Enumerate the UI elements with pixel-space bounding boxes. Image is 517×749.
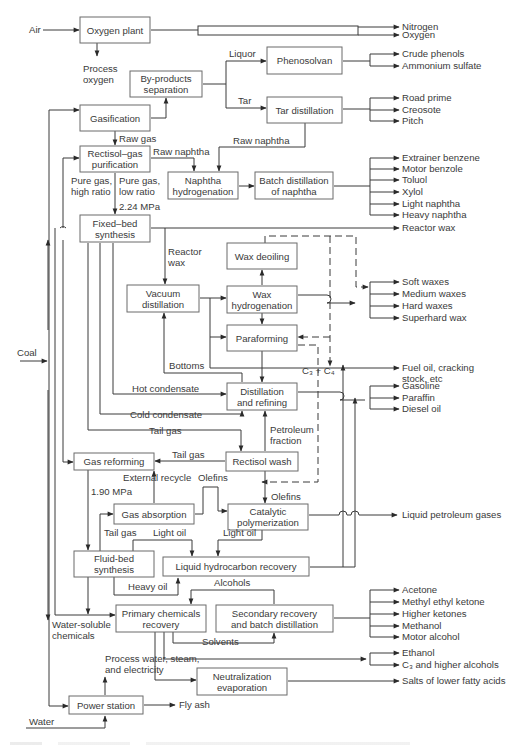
unit-vacuum-distillation: Vacuumdistillation — [127, 285, 199, 312]
unit-tar-distillation: Tar distillation — [267, 97, 342, 123]
output-secondary-recovery: Motor alcohol — [402, 631, 460, 642]
stream-c3-c4: C₃ + C₄ — [302, 365, 335, 376]
unit-secondary-recovery: Secondary recoveryand batch distillation — [216, 605, 333, 632]
unit-rectisol-gas-purification: Rectisol–gaspurification — [80, 146, 150, 172]
stream-tar: Tar — [238, 95, 252, 106]
stream-pressure-190: 1.90 MPa — [91, 486, 133, 497]
unit-gasification: Gasification — [80, 105, 150, 131]
unit-label: Oxygen plant — [87, 25, 144, 36]
output-secondary-recovery: Higher ketones — [402, 608, 467, 619]
stream-process-water: and electricity — [105, 664, 164, 675]
stream-raw-naphtha-2: Raw naphtha — [233, 135, 290, 146]
unit-label: Paraforming — [236, 333, 288, 344]
stream-light-oil-2: Light oil — [223, 527, 256, 538]
stream-raw-gas: Raw gas — [119, 133, 157, 144]
unit-label: Gas absorption — [121, 509, 186, 520]
stream-tail-gas-1: Tail gas — [149, 425, 182, 436]
output-distillation-refining: Diesel oil — [402, 403, 441, 414]
output-tar-distillation: Road prime — [402, 92, 452, 103]
unit-label: synthesis — [94, 564, 134, 575]
unit-label: Tar distillation — [275, 105, 333, 116]
output-batch-distillation-naphtha: Xylol — [402, 186, 423, 197]
stream-process-oxygen: oxygen — [83, 74, 114, 85]
unit-fixed-bed-synthesis: Fixed–bedsynthesis — [80, 215, 150, 242]
unit-wax-deoiling: Wax deoiling — [227, 243, 297, 269]
unit-neutralization-evaporation: Neutralizationevaporation — [197, 668, 287, 695]
output-power-station: Fly ash — [179, 699, 210, 710]
stream-pure-gas-low: Pure gas, — [119, 175, 160, 186]
unit-byproducts-separation: By-productsseparation — [130, 71, 202, 97]
stream-reactor-wax: wax — [167, 257, 185, 268]
unit-label: Wax deoiling — [235, 251, 290, 262]
unit-label: Fixed–bed — [93, 218, 138, 229]
stream-water-soluble: chemicals — [52, 630, 95, 641]
output-batch-distillation-naphtha: Light naphtha — [402, 198, 461, 209]
output-wax-products: Hard waxes — [402, 300, 453, 311]
stream-pure-gas-high: Pure gas, — [71, 175, 112, 186]
stream-petroleum-fraction: Petroleum — [270, 424, 314, 435]
stream-water-soluble: Water-soluble — [52, 619, 111, 630]
stream-olefins-1: Olefins — [198, 472, 228, 483]
unit-fluid-bed-synthesis: Fluid-bedsynthesis — [74, 551, 154, 577]
unit-label: Liquid hydrocarbon recovery — [175, 561, 296, 572]
unit-label: Distillation — [240, 386, 284, 397]
process-flow-diagram: Oxygen plantBy-productsseparationPhenoso… — [0, 0, 517, 749]
output-batch-distillation-naphtha: Extrainer benzene — [402, 152, 480, 163]
input-air: Air — [29, 24, 42, 35]
unit-distillation-refining: Distillationand refining — [227, 383, 297, 410]
output-secondary-recovery: Methanol — [402, 620, 441, 631]
input-coal: Coal — [17, 347, 37, 358]
unit-gas-reforming: Gas reforming — [74, 453, 154, 470]
unit-power-station: Power station — [69, 696, 143, 714]
output-alcohols: C₃ and higher alcohols — [402, 659, 499, 670]
output-wax-products: Soft waxes — [402, 276, 449, 287]
output-secondary-recovery: Methyl ethyl ketone — [402, 596, 485, 607]
stream-petroleum-fraction: fraction — [270, 435, 301, 446]
unit-oxygen-plant: Oxygen plant — [80, 17, 150, 43]
unit-label: Wax — [253, 289, 272, 300]
unit-label: Gasification — [90, 113, 140, 124]
unit-label: and refining — [237, 397, 287, 408]
stream-pressure-224: 2.24 MPa — [119, 201, 161, 212]
stream-liquor: Liquor — [229, 48, 256, 59]
unit-label: distillation — [142, 299, 184, 310]
unit-label: Primary chemicals — [122, 608, 201, 619]
stream-process-oxygen: Process — [83, 63, 118, 74]
stream-pure-gas-low: low ratio — [119, 186, 155, 197]
stream-raw-naphtha-1: Raw naphtha — [153, 146, 210, 157]
unit-label: Batch distillation — [259, 175, 328, 186]
output-fuel-oil: Fuel oil, cracking — [402, 362, 474, 373]
stream-hot-condensate: Hot condensate — [132, 383, 199, 394]
output-batch-distillation-naphtha: Heavy naphtha — [402, 209, 467, 220]
stream-reactor-wax: Reactor — [168, 246, 202, 257]
unit-label: and batch distillation — [231, 619, 318, 630]
unit-label: purification — [92, 159, 138, 170]
unit-label: synthesis — [95, 229, 135, 240]
output-distillation-refining: Paraffin — [402, 392, 435, 403]
output-fixed-bed-synthesis: Reactor wax — [402, 222, 456, 233]
output-distillation-refining: Gasoline — [402, 380, 440, 391]
stream-olefins-2: Olefins — [271, 491, 301, 502]
unit-gas-absorption: Gas absorption — [114, 504, 194, 524]
unit-label: separation — [144, 84, 189, 95]
stream-labels: ProcessoxygenLiquorTarRaw gasRaw naphtha… — [52, 48, 335, 675]
stream-light-oil-1: Light oil — [153, 527, 186, 538]
output-alcohols: Ethanol — [402, 647, 435, 658]
unit-liquid-hydrocarbon-recovery: Liquid hydrocarbon recovery — [163, 557, 309, 576]
unit-rectisol-wash: Rectisol wash — [226, 452, 298, 471]
stream-solvents: Solvents — [202, 636, 239, 647]
stream-cold-condensate: Cold condensate — [130, 409, 202, 420]
output-wax-products: Medium waxes — [402, 288, 466, 299]
output-tar-distillation: Creosote — [402, 104, 441, 115]
stream-tail-gas-3: Tail gas — [104, 527, 137, 538]
unit-label: Fluid-bed — [94, 553, 134, 564]
unit-label: hydrogenation — [173, 186, 234, 197]
output-oxygen-plant: Oxygen — [402, 29, 435, 40]
output-wax-products: Superhard wax — [402, 312, 467, 323]
unit-label: Power station — [77, 700, 135, 711]
unit-label: Rectisol–gas — [88, 148, 143, 159]
stream-external-recycle: External recycle — [123, 472, 191, 483]
output-secondary-recovery: Acetone — [402, 584, 437, 595]
unit-batch-distillation-naphtha: Batch distillationof naphtha — [255, 172, 333, 199]
unit-label: Vacuum — [146, 288, 180, 299]
